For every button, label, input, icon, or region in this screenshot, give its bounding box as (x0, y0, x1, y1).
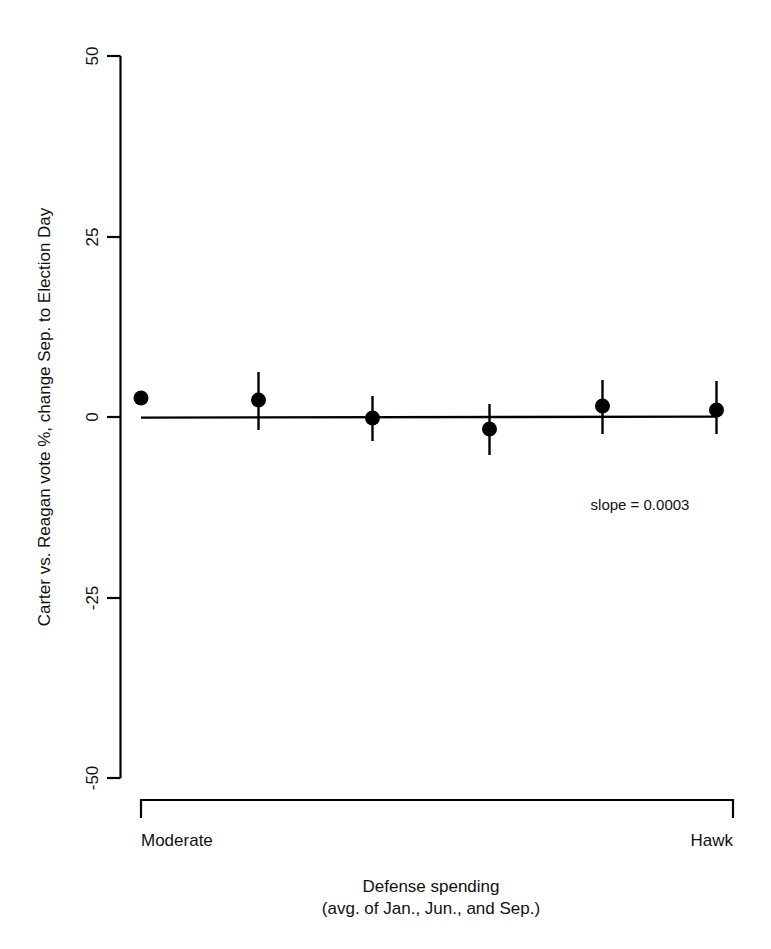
scatter-plot: 50 25 0 -25 -50 Carter vs. Reagan vote %… (0, 0, 771, 949)
data-point-2 (251, 393, 266, 408)
data-point-6 (709, 403, 724, 418)
chart-figure: 50 25 0 -25 -50 Carter vs. Reagan vote %… (0, 0, 771, 949)
regression-line (141, 417, 716, 418)
x-tick-label-hawk: Hawk (690, 831, 733, 850)
x-axis-bracket (141, 800, 733, 818)
slope-annotation: slope = 0.0003 (591, 496, 690, 513)
y-tick-label-50: 50 (83, 47, 102, 66)
data-point-4 (482, 422, 497, 437)
data-points (134, 391, 725, 437)
error-bars (259, 372, 717, 455)
y-axis-ticks (107, 56, 121, 778)
y-tick-label-0: 0 (83, 412, 102, 421)
y-axis-title: Carter vs. Reagan vote %, change Sep. to… (35, 207, 54, 626)
data-point-3 (365, 411, 380, 426)
y-tick-label-25: 25 (83, 228, 102, 247)
y-axis-tick-labels: 50 25 0 -25 -50 (83, 47, 102, 791)
data-point-1 (134, 391, 149, 406)
y-tick-label-minus25: -25 (83, 586, 102, 611)
x-axis-subtitle: (avg. of Jan., Jun., and Sep.) (322, 899, 540, 918)
y-tick-label-minus50: -50 (83, 766, 102, 791)
x-tick-label-moderate: Moderate (141, 831, 213, 850)
x-axis-title: Defense spending (362, 877, 499, 896)
data-point-5 (595, 399, 610, 414)
